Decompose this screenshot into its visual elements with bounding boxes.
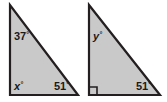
right-triangle-angle-51-value: 51 (136, 80, 148, 92)
right-triangle-angle-y-degree: ° (99, 31, 102, 38)
right-triangle-angle-51-degree: ° (148, 81, 151, 88)
left-triangle-angle-37-value: 37 (14, 30, 26, 42)
left-triangle-angle-51-value: 51 (54, 80, 66, 92)
left-triangle-angle-x-degree: ° (20, 81, 23, 88)
left-triangle-angle-51-degree: ° (66, 81, 69, 88)
geometry-figure: 37° x° 51° y° 51° (0, 0, 167, 102)
left-triangle-angle-37-degree: ° (26, 31, 29, 38)
